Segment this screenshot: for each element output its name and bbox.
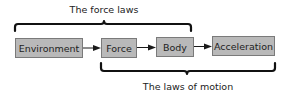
arrow-body-to-acceleration xyxy=(194,44,212,50)
arrow-head-icon xyxy=(93,45,101,51)
force-label: Force xyxy=(106,43,132,54)
laws-of-motion-brace xyxy=(101,63,275,74)
node-acceleration: Acceleration xyxy=(213,37,275,56)
arrow-environment-to-force xyxy=(83,45,101,51)
node-force: Force xyxy=(102,39,137,58)
force-laws-diagram: The force laws Environment Force Body Ac… xyxy=(0,0,298,100)
arrow-head-icon xyxy=(204,44,212,50)
node-body: Body xyxy=(157,38,194,57)
body-label: Body xyxy=(163,42,187,53)
force-laws-label: The force laws xyxy=(69,4,139,15)
laws-of-motion-label: The laws of motion xyxy=(142,81,233,92)
force-laws-brace xyxy=(15,21,191,31)
acceleration-label: Acceleration xyxy=(214,41,273,52)
arrow-head-icon xyxy=(148,45,156,51)
node-environment: Environment xyxy=(16,39,83,58)
environment-label: Environment xyxy=(19,43,80,54)
arrow-force-to-body xyxy=(137,45,156,51)
